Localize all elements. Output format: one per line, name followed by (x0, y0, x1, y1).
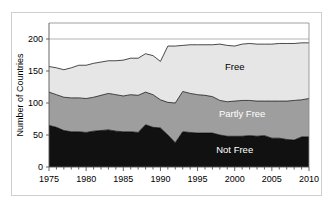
y-tick-label-200: 200 (28, 34, 43, 44)
y-axis-ticks: 050100150200 (28, 34, 49, 172)
series-label-partly-free: Partly Free (219, 108, 265, 119)
x-axis-ticks: 19751980198519901995200020052010 (39, 167, 319, 184)
y-axis-title: Number of Countries (15, 53, 25, 137)
y-tick-label-100: 100 (28, 98, 43, 108)
series-label-free: Free (225, 61, 245, 72)
x-tick-label-1995: 1995 (188, 174, 208, 184)
x-tick-label-1985: 1985 (113, 174, 133, 184)
x-tick-label-2010: 2010 (299, 174, 319, 184)
x-tick-label-1990: 1990 (150, 174, 170, 184)
series-label-not-free: Not Free (216, 144, 253, 155)
y-tick-label-50: 50 (33, 130, 43, 140)
chart-figure-frame: 050100150200 197519801985199019952000200… (11, 12, 322, 196)
y-tick-label-150: 150 (28, 66, 43, 76)
y-tick-label-0: 0 (38, 162, 43, 172)
stacked-area-chart: 050100150200 197519801985199019952000200… (12, 13, 323, 197)
x-tick-label-2005: 2005 (262, 174, 282, 184)
x-tick-label-1975: 1975 (39, 174, 59, 184)
x-tick-label-1980: 1980 (76, 174, 96, 184)
x-tick-label-2000: 2000 (225, 174, 245, 184)
